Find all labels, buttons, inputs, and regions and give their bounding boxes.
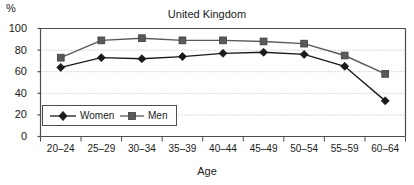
x-tick-label: 55–59 xyxy=(331,143,359,155)
chart-legend: Women Men xyxy=(42,105,177,126)
x-tick-label: 40–44 xyxy=(209,143,237,155)
legend-entry-men: Men xyxy=(119,106,167,125)
x-axis-title: Age xyxy=(0,165,414,178)
x-axis-tick-marks xyxy=(41,137,406,142)
legend-entry-women: Women xyxy=(49,106,114,125)
data-series-layer xyxy=(57,35,389,105)
x-tick-label: 30–34 xyxy=(128,143,156,155)
x-tick-label: 50–54 xyxy=(290,143,318,155)
x-tick-label: 45–49 xyxy=(250,143,278,155)
legend-label-women: Women xyxy=(80,110,114,121)
diamond-marker xyxy=(49,110,77,122)
x-axis-tick-labels: 20–2425–2930–3435–3940–4445–4950–5455–59… xyxy=(0,143,414,161)
x-tick-label: 35–39 xyxy=(169,143,197,155)
x-tick-label: 20–24 xyxy=(47,143,75,155)
x-tick-label: 25–29 xyxy=(87,143,115,155)
square-marker xyxy=(119,110,145,122)
x-tick-label: 60–64 xyxy=(371,143,399,155)
legend-label-men: Men xyxy=(148,110,167,121)
chart-container: % United Kingdom 020406080100 20–2425–29… xyxy=(0,0,414,185)
